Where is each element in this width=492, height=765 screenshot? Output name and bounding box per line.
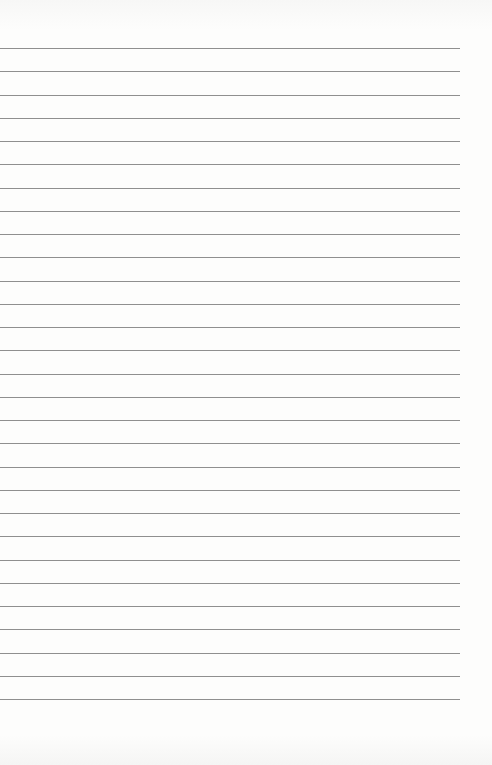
lined-paper-sheet [0, 0, 492, 765]
ruled-line [0, 653, 460, 654]
ruled-line [0, 467, 460, 468]
ruled-line [0, 443, 460, 444]
ruled-line [0, 513, 460, 514]
ruled-line [0, 118, 460, 119]
ruled-line [0, 699, 460, 700]
ruled-line [0, 560, 460, 561]
ruled-line [0, 141, 460, 142]
ruled-line [0, 676, 460, 677]
ruled-line [0, 95, 460, 96]
ruled-line [0, 281, 460, 282]
ruled-line [0, 48, 460, 49]
ruled-line [0, 257, 460, 258]
ruled-line [0, 350, 460, 351]
ruled-line [0, 606, 460, 607]
ruled-line [0, 397, 460, 398]
ruled-line [0, 629, 460, 630]
ruled-line [0, 536, 460, 537]
ruled-line [0, 583, 460, 584]
ruled-line [0, 211, 460, 212]
ruled-line [0, 490, 460, 491]
ruled-line [0, 304, 460, 305]
ruled-line [0, 374, 460, 375]
ruled-line [0, 71, 460, 72]
ruled-line [0, 420, 460, 421]
ruled-line [0, 327, 460, 328]
ruled-line [0, 164, 460, 165]
ruled-line [0, 234, 460, 235]
ruled-line [0, 188, 460, 189]
